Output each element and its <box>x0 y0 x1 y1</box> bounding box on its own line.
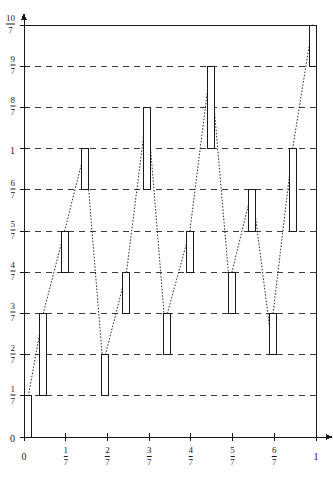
fraction-glyph: 57 <box>230 446 235 467</box>
x-axis-tick-label-6: 67 <box>272 446 277 469</box>
x-axis-tick-label-1: 17 <box>63 446 68 469</box>
y-axis-tick-label-7: 1 <box>10 140 19 158</box>
fraction-denominator: 7 <box>189 458 194 467</box>
y-axis-tick-label-2: 27 <box>11 343 20 366</box>
fraction-numerator: 8 <box>11 96 16 105</box>
axes-group <box>21 13 333 440</box>
tick-label-text: 0 <box>22 451 27 462</box>
fraction-denominator: 7 <box>147 458 152 467</box>
fraction-numerator: 6 <box>11 178 16 187</box>
fraction-denominator: 7 <box>11 273 16 282</box>
fraction-denominator: 7 <box>63 458 68 467</box>
fraction-glyph: 47 <box>11 261 16 282</box>
jump-bar <box>228 272 235 313</box>
jump-bar <box>102 355 109 396</box>
fraction-denominator: 7 <box>11 67 16 76</box>
y-axis-tick-label-8: 87 <box>11 96 20 119</box>
fraction-numerator: 4 <box>11 261 16 270</box>
jump-bar <box>309 25 316 66</box>
x-axis-tick-label-0: 0 <box>22 446 27 464</box>
fraction-glyph: 17 <box>63 446 68 467</box>
x-axis-tick-label-3: 37 <box>147 446 152 469</box>
jump-bar <box>249 190 256 231</box>
fraction-denominator: 7 <box>6 26 15 35</box>
y-axis-tick-label-1: 17 <box>11 384 20 407</box>
fraction-numerator: 5 <box>230 446 235 455</box>
y-axis-tick-label-6: 67 <box>11 178 20 201</box>
fraction-numerator: 4 <box>189 446 194 455</box>
fraction-glyph: 67 <box>11 178 16 199</box>
y-axis-tick-label-4: 47 <box>11 261 20 284</box>
fraction-numerator: 10 <box>6 14 15 23</box>
y-axis-tick-label-10: 107 <box>6 14 19 37</box>
fraction-numerator: 3 <box>11 302 16 311</box>
fraction-denominator: 7 <box>230 458 235 467</box>
tick-label-text: 0 <box>10 433 15 444</box>
fraction-glyph: 47 <box>189 446 194 467</box>
jump-bar <box>270 313 277 354</box>
x-axis-tick-label-2: 27 <box>105 446 110 469</box>
jump-bar <box>164 313 171 354</box>
fraction-numerator: 2 <box>11 343 16 352</box>
fraction-numerator: 3 <box>147 446 152 455</box>
y-axis-tick-label-0: 0 <box>10 428 19 446</box>
fraction-glyph: 97 <box>11 55 16 76</box>
jump-bar <box>207 66 214 148</box>
jump-bar <box>61 231 68 272</box>
jump-bar <box>40 313 47 395</box>
fraction-glyph: 67 <box>272 446 277 467</box>
x-axis-tick-label-4: 47 <box>189 446 194 469</box>
plot-canvas <box>0 0 333 479</box>
x-axis-tick-label-5: 57 <box>230 446 235 469</box>
fraction-glyph: 27 <box>11 343 16 364</box>
fraction-denominator: 7 <box>11 355 16 364</box>
fraction-numerator: 6 <box>272 446 277 455</box>
fraction-glyph: 57 <box>11 220 16 241</box>
fraction-denominator: 7 <box>11 314 16 323</box>
tick-label-text: 1 <box>10 145 15 156</box>
y-axis-tick-label-9: 97 <box>11 55 20 78</box>
jump-bar <box>186 231 193 272</box>
fraction-denominator: 7 <box>272 458 277 467</box>
jump-bar <box>25 396 32 437</box>
fraction-numerator: 2 <box>105 446 110 455</box>
x-axis-tick-label-7: 1 <box>314 446 319 464</box>
fraction-denominator: 7 <box>11 190 16 199</box>
fraction-glyph: 37 <box>11 302 16 323</box>
fraction-denominator: 7 <box>11 108 16 117</box>
fraction-numerator: 1 <box>63 446 68 455</box>
y-axis-tick-label-5: 57 <box>11 220 20 243</box>
tick-label-text: 1 <box>314 451 319 462</box>
jump-bar <box>289 149 296 231</box>
fraction-glyph: 27 <box>105 446 110 467</box>
fraction-glyph: 107 <box>6 14 15 35</box>
x-axis-arrow-icon <box>326 434 333 440</box>
fraction-numerator: 5 <box>11 220 16 229</box>
fraction-numerator: 1 <box>11 384 16 393</box>
fraction-numerator: 9 <box>11 55 16 64</box>
jump-bar <box>144 107 151 189</box>
figure-root: 017273747576718797107 01727374757671 <box>0 0 333 479</box>
y-axis-tick-label-3: 37 <box>11 302 20 325</box>
fraction-glyph: 37 <box>147 446 152 467</box>
fraction-glyph: 87 <box>11 96 16 117</box>
y-axis-arrow-icon <box>21 13 27 20</box>
fraction-denominator: 7 <box>11 396 16 405</box>
fraction-denominator: 7 <box>105 458 110 467</box>
jump-bar <box>123 272 130 313</box>
jump-bar <box>82 149 89 190</box>
fraction-glyph: 17 <box>11 384 16 405</box>
fraction-denominator: 7 <box>11 232 16 241</box>
